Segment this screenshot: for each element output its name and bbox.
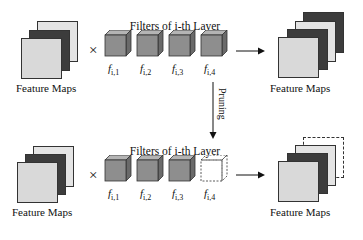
feature-map-front [278,37,319,78]
filter-cube-icon [169,155,195,181]
pruned-filter-cube-icon [201,155,227,181]
multiply-operator: × [89,43,97,58]
filter-label: fi,3 [172,62,183,77]
filter-cube-icon [137,155,163,181]
pruning-label: Pruning [217,88,228,120]
input-feature-maps-label: Feature Maps [12,206,72,218]
feature-map-front [21,38,62,79]
filter-label: fi,2 [140,62,151,77]
output-feature-maps-label: Feature Maps [270,82,330,94]
filter-label: fi,1 [108,187,119,202]
feature-map-front [17,162,58,203]
filter-label: fi,4 [204,62,215,77]
filter-cubes-bottom [100,155,240,187]
filter-cube-icon [169,30,195,56]
filter-label: fi,4 [204,187,215,202]
feature-map-front [278,161,319,202]
filter-label: fi,3 [172,187,183,202]
filter-cube-icon [137,30,163,56]
filter-label: fi,2 [140,187,151,202]
filter-label: fi,1 [108,62,119,77]
filter-cube-icon [105,155,131,181]
multiply-operator: × [89,168,97,183]
input-feature-maps-label: Feature Maps [16,82,76,94]
right-arrow-icon [236,170,266,180]
output-feature-maps-label: Feature Maps [270,206,330,218]
filter-cube-icon [105,30,131,56]
filter-cube-icon [201,30,227,56]
filter-cubes-top [100,30,240,62]
right-arrow-icon [236,46,266,56]
